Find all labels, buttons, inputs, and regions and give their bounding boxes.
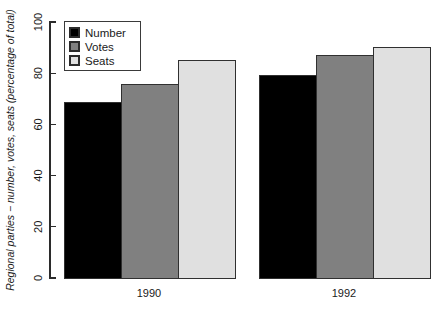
chart-canvas: 100 80 60 40 20 0 Regional parties − num…: [0, 0, 444, 310]
legend-swatch-votes: [70, 42, 79, 51]
bar-number-1990: [64, 102, 121, 278]
chart-legend: Number Votes Seats: [64, 21, 140, 70]
y-tick-label-100: 100: [32, 13, 44, 31]
y-tick-label-0: 0: [32, 275, 44, 281]
y-axis-title: Regional parties − number, votes, seats …: [4, 9, 16, 291]
bar-votes-1990: [121, 84, 178, 278]
bar-number-1992: [259, 76, 316, 278]
y-axis: [50, 22, 56, 278]
y-tick-labels: 100 80 60 40 20 0: [32, 13, 44, 281]
category-label-1990: 1990: [137, 287, 161, 299]
legend-swatch-seats: [70, 56, 79, 65]
y-tick-label-60: 60: [32, 118, 44, 130]
bar-group-1992: [259, 48, 430, 278]
bar-votes-1992: [316, 55, 373, 278]
legend-swatch-number: [70, 28, 79, 37]
y-tick-label-80: 80: [32, 67, 44, 79]
y-axis-line: [50, 22, 56, 278]
bar-seats-1990: [178, 60, 235, 278]
y-tick-label-20: 20: [32, 221, 44, 233]
legend-label-number: Number: [85, 27, 126, 39]
bar-group-1990: [64, 60, 235, 278]
y-tick-label-40: 40: [32, 169, 44, 181]
category-label-1992: 1992: [332, 287, 356, 299]
legend-label-seats: Seats: [85, 55, 115, 67]
bar-seats-1992: [373, 48, 430, 278]
legend-label-votes: Votes: [85, 41, 114, 53]
bar-chart: 100 80 60 40 20 0 Regional parties − num…: [0, 0, 444, 310]
